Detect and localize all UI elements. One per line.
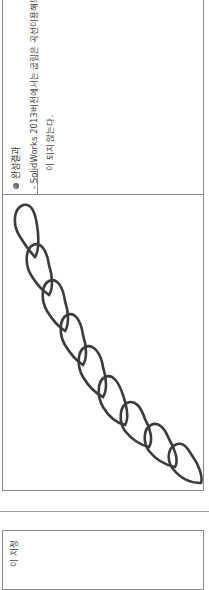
note-line-1: - SolidWorks 2013버전에서는 굽힘은 곡선이용해도 (27, 0, 39, 189)
chain-drawing (3, 195, 203, 490)
heading-label: 완성결과 (9, 147, 22, 179)
lower-box: 이 지정 (2, 530, 204, 590)
lower-box-text: 이 지정 (7, 540, 19, 567)
chain-figure-cell (3, 195, 203, 490)
chain-link-5 (79, 346, 106, 397)
rotated-text-block: 완성결과 - SolidWorks 2013버전에서는 굽힘은 곡선이용해도 이… (5, 0, 65, 193)
note-line-2: 이 되지 않는다. (43, 115, 55, 171)
section-heading: 완성결과 (9, 147, 22, 189)
text-cell: 완성결과 - SolidWorks 2013버전에서는 굽힘은 곡선이용해도 이… (3, 0, 203, 195)
chain-link-1 (15, 205, 38, 257)
page-separator (0, 511, 209, 512)
chain-link-6 (99, 376, 127, 425)
column-divider (37, 169, 38, 195)
bullet-icon (13, 183, 19, 189)
chain-link-3 (43, 280, 68, 331)
result-table: 완성결과 - SolidWorks 2013버전에서는 굽힘은 곡선이용해도 이… (2, 0, 204, 491)
chain-link-4 (61, 314, 86, 365)
